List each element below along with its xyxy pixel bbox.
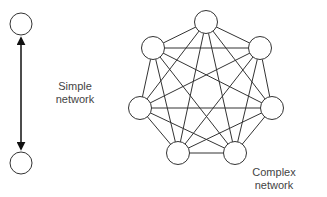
node [224, 142, 247, 165]
node [142, 37, 165, 60]
node [167, 142, 190, 165]
edge [178, 108, 272, 153]
node [10, 152, 32, 174]
node [249, 37, 272, 60]
edge [140, 22, 206, 108]
simple-network [10, 13, 32, 174]
node [129, 97, 152, 120]
edge [178, 22, 206, 153]
node [195, 11, 218, 34]
complex-network-label: Complex network [248, 166, 300, 192]
node [10, 13, 32, 35]
simple-network-label: Simple network [50, 80, 100, 106]
node [261, 97, 284, 120]
complex-network-nodes [129, 11, 284, 165]
